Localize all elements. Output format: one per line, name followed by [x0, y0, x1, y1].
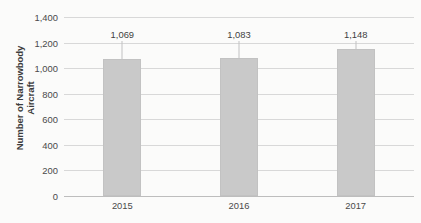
plot-area: 1,0691,0831,148 — [64, 17, 414, 196]
x-tick-label-2016: 2016 — [181, 200, 298, 211]
y-tick-label-0: 0 — [12, 191, 58, 202]
bar-chart: Number of Narrowbody Aircraft 1,4001,200… — [0, 0, 421, 223]
y-tick-label-600: 600 — [12, 114, 58, 125]
y-tick-label-200: 200 — [12, 165, 58, 176]
gridline-0 — [64, 196, 414, 197]
bar-group-2016[interactable]: 1,083 — [181, 17, 298, 196]
bar-value-label-2015: 1,069 — [111, 29, 134, 40]
bar-2017[interactable] — [337, 49, 375, 196]
y-tick-label-1000: 1,000 — [12, 63, 58, 74]
y-axis-tick-labels: 1,4001,2001,0008006004002000 — [10, 17, 58, 196]
bar-group-2015[interactable]: 1,069 — [64, 17, 181, 196]
y-tick-label-1200: 1,200 — [12, 37, 58, 48]
x-tick-label-2017: 2017 — [297, 200, 414, 211]
bar-2016[interactable] — [220, 58, 258, 196]
bars-layer: 1,0691,0831,148 — [64, 17, 414, 196]
bar-group-2017[interactable]: 1,148 — [297, 17, 414, 196]
bar-2015[interactable] — [103, 59, 141, 196]
y-tick-label-800: 800 — [12, 88, 58, 99]
leader-line-2015 — [122, 41, 123, 59]
x-tick-label-2015: 2015 — [64, 200, 181, 211]
x-axis-tick-labels: 201520162017 — [64, 200, 414, 220]
leader-line-2017 — [355, 41, 356, 49]
y-tick-label-1400: 1,400 — [12, 12, 58, 23]
y-tick-label-400: 400 — [12, 139, 58, 150]
leader-line-2016 — [238, 41, 239, 58]
bar-value-label-2017: 1,148 — [344, 29, 367, 40]
bar-value-label-2016: 1,083 — [227, 29, 250, 40]
